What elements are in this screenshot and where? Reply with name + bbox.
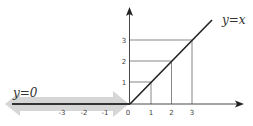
negative-branch-label: y=0 xyxy=(12,86,38,100)
y-tick-label: 1 xyxy=(122,79,126,87)
relu-positive-branch xyxy=(130,20,212,104)
relu-diagram: -3 -2 -1 0 1 2 3 1 2 3 y=x y=0 xyxy=(0,0,253,126)
y-tick-labels: 1 2 3 xyxy=(122,37,126,87)
y-tick-label: 3 xyxy=(122,37,126,45)
x-tick-label: -3 xyxy=(59,109,66,117)
x-tick-label: 2 xyxy=(169,109,173,117)
x-tick-label: -1 xyxy=(102,109,109,117)
x-tick-label: -2 xyxy=(81,109,88,117)
y-axis xyxy=(126,7,133,104)
y-tick-label: 2 xyxy=(122,58,126,66)
x-tick-label: 3 xyxy=(190,109,194,117)
x-axis xyxy=(130,101,244,108)
x-tick-label: 0 xyxy=(126,109,130,117)
x-tick-label: 1 xyxy=(149,109,153,117)
positive-branch-label: y=x xyxy=(221,13,246,27)
